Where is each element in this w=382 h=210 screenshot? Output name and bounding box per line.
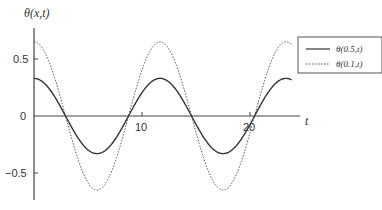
legend-label-dotted: θ(0.1,t) bbox=[336, 59, 362, 69]
y-tick-label: 0.5 bbox=[13, 53, 28, 65]
y-tick-label: −0.5 bbox=[5, 167, 27, 179]
y-axis-title: θ(x,t) bbox=[24, 6, 50, 20]
x-tick-label: 10 bbox=[135, 121, 147, 133]
legend-label-solid: θ(0.5,t) bbox=[336, 44, 362, 54]
axes bbox=[34, 28, 300, 200]
y-tick-label: 0 bbox=[20, 110, 26, 122]
x-axis-title: t bbox=[305, 114, 309, 128]
legend: θ(0.5,t) θ(0.1,t) bbox=[298, 37, 382, 73]
y-ticks: 0.50−0.5 bbox=[5, 53, 38, 179]
line-chart: 0.50−0.5 1020 θ(x,t) t θ(0.5,t) θ(0.1,t) bbox=[0, 0, 382, 210]
